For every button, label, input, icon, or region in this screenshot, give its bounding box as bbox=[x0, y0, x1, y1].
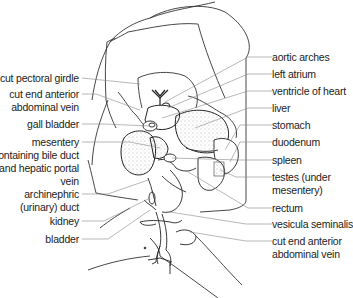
label-line: and hepatic portal bbox=[0, 162, 79, 175]
label-archinephric-duct: archinephric (urinary) duct bbox=[20, 188, 79, 214]
label-liver: liver bbox=[272, 102, 290, 115]
label-line: archinephric bbox=[20, 188, 79, 201]
label-line: abdominal vein bbox=[9, 101, 79, 114]
label-spleen: spleen bbox=[272, 154, 302, 167]
label-ventricle-of-heart: ventricle of heart bbox=[272, 85, 346, 98]
label-bladder: bladder bbox=[45, 233, 79, 246]
label-cut-end-anterior-abdominal-vein-left: cut end anterior abdominal vein bbox=[9, 88, 79, 114]
label-testes: testes (under mesentery) bbox=[272, 171, 331, 197]
label-line: abdominal vein bbox=[272, 248, 342, 261]
leader-lines bbox=[82, 57, 272, 241]
label-duodenum: duodenum bbox=[272, 136, 320, 149]
label-line: vesicula seminalis bbox=[272, 218, 353, 231]
label-line: (urinary) duct bbox=[20, 201, 79, 214]
label-cut-pectoral-girdle: cut pectoral girdle bbox=[0, 72, 79, 85]
label-line: testes (under bbox=[272, 171, 331, 184]
intestine-drawing bbox=[158, 154, 225, 212]
label-aortic-arches: aortic arches bbox=[272, 51, 330, 64]
label-kidney: kidney bbox=[50, 215, 79, 228]
label-line: mesentery) bbox=[272, 184, 331, 197]
label-line: vein bbox=[0, 175, 79, 188]
label-line: liver bbox=[272, 102, 290, 115]
label-stomach: stomach bbox=[272, 119, 310, 132]
label-left-atrium: left atrium bbox=[272, 68, 316, 81]
label-line: mesentery bbox=[0, 136, 79, 149]
urogenital-drawing bbox=[140, 178, 196, 274]
label-line: ventricle of heart bbox=[272, 85, 346, 98]
label-line: rectum bbox=[272, 202, 303, 215]
label-line: aortic arches bbox=[272, 51, 330, 64]
label-gall-bladder: gall bladder bbox=[27, 118, 79, 131]
label-cut-end-anterior-abdominal-vein-right: cut end anterior abdominal vein bbox=[272, 235, 342, 261]
label-line: spleen bbox=[272, 154, 302, 167]
label-line: left atrium bbox=[272, 68, 316, 81]
label-line: cut pectoral girdle bbox=[0, 72, 79, 85]
label-line: stomach bbox=[272, 119, 310, 132]
label-line: containing bile duct bbox=[0, 149, 79, 162]
label-mesentery: mesentery containing bile duct and hepat… bbox=[0, 136, 79, 188]
label-line: gall bladder bbox=[27, 118, 79, 131]
label-line: cut end anterior bbox=[9, 88, 79, 101]
label-line: cut end anterior bbox=[272, 235, 342, 248]
label-line: duodenum bbox=[272, 136, 320, 149]
label-rectum: rectum bbox=[272, 202, 303, 215]
label-vesicula-seminalis: vesicula seminalis bbox=[272, 218, 353, 231]
label-line: bladder bbox=[45, 233, 79, 246]
label-line: kidney bbox=[50, 215, 79, 228]
